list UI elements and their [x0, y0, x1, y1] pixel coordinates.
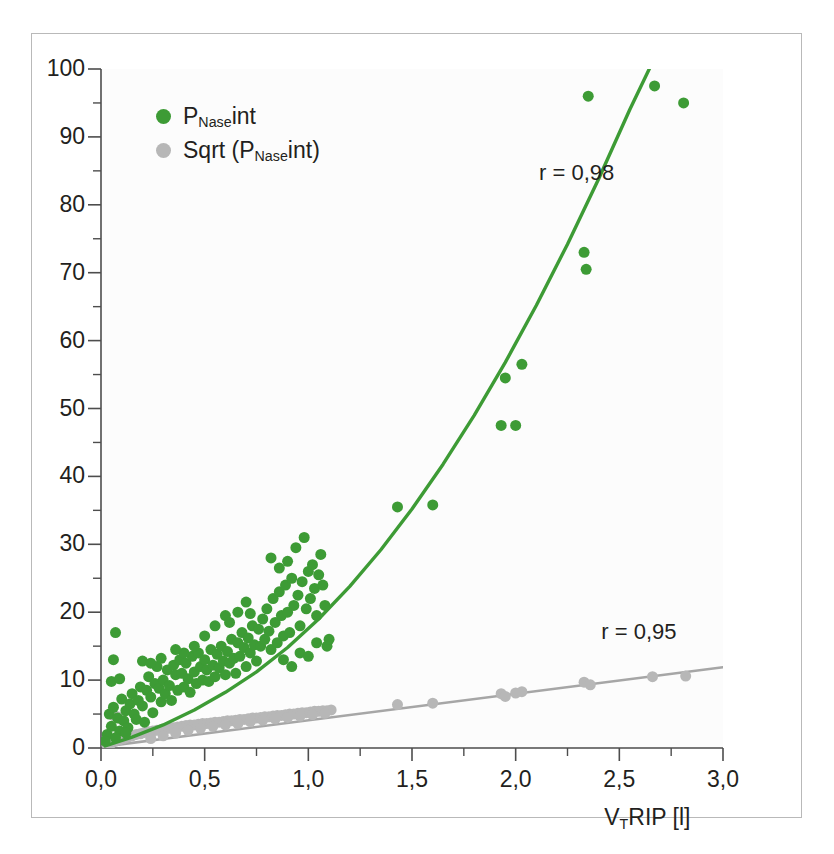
x-tick-label: 2,5: [579, 768, 659, 791]
data-point: [156, 653, 167, 664]
y-tick-label: 60: [21, 329, 85, 352]
y-tick-label: 90: [21, 125, 85, 148]
series-group: [100, 62, 723, 751]
data-point: [319, 600, 330, 611]
data-point: [145, 658, 156, 669]
data-point: [210, 620, 221, 631]
data-point: [496, 420, 507, 431]
data-point: [137, 700, 148, 711]
data-point: [313, 569, 324, 580]
data-point: [251, 656, 262, 667]
data-point: [647, 671, 658, 682]
data-point: [166, 695, 177, 706]
data-point: [299, 532, 310, 543]
legend-marker-icon: [156, 143, 171, 158]
data-point: [241, 597, 252, 608]
data-point: [183, 725, 194, 736]
data-point: [500, 691, 511, 702]
data-point: [158, 730, 169, 741]
legend: PNaseintSqrt (PNaseint): [156, 102, 320, 164]
data-point: [147, 707, 158, 718]
figure-frame: PNaseintSqrt (PNaseint) r = 0,98r = 0,95…: [31, 33, 802, 818]
data-point: [295, 711, 306, 722]
data-point: [581, 264, 592, 275]
data-point: [261, 603, 272, 614]
data-point: [220, 669, 231, 680]
data-point: [139, 717, 150, 728]
x-tick-label: 0,5: [165, 768, 245, 791]
data-point: [680, 671, 691, 682]
data-point: [108, 654, 119, 665]
data-point: [257, 613, 268, 624]
data-point: [307, 559, 318, 570]
data-point: [297, 576, 308, 587]
data-point: [301, 603, 312, 614]
data-point: [678, 97, 689, 108]
data-point: [516, 686, 527, 697]
x-tick-label: 2,0: [476, 768, 556, 791]
x-tick-label: 1,0: [268, 768, 348, 791]
legend-item-label: Sqrt (PNaseint): [183, 139, 320, 162]
data-point: [145, 692, 156, 703]
x-tick-label: 3,0: [683, 768, 763, 791]
data-point: [392, 699, 403, 710]
r-value-green: r = 0,98: [539, 162, 614, 184]
legend-marker-icon: [156, 109, 171, 124]
data-point: [303, 651, 314, 662]
y-tick-label: 100: [21, 57, 85, 80]
legend-item-label: PNaseint: [183, 105, 256, 128]
data-point: [199, 630, 210, 641]
data-point: [319, 708, 330, 719]
data-point: [286, 661, 297, 672]
data-point: [220, 719, 231, 730]
x-tick-label: 0,0: [61, 768, 141, 791]
y-tick-label: 80: [21, 193, 85, 216]
legend-item-sqrt-pnase-int[interactable]: Sqrt (PNaseint): [156, 136, 320, 164]
data-point: [649, 80, 660, 91]
data-point: [232, 607, 243, 618]
data-point: [110, 732, 121, 743]
data-point: [253, 624, 264, 635]
data-point: [324, 634, 335, 645]
data-point: [317, 580, 328, 591]
data-point: [207, 721, 218, 732]
data-point: [282, 556, 293, 567]
data-point: [392, 501, 403, 512]
data-point: [263, 626, 274, 637]
data-point: [516, 359, 527, 370]
data-point: [270, 713, 281, 724]
data-point: [284, 627, 295, 638]
data-point: [585, 679, 596, 690]
data-layer: [32, 34, 803, 819]
data-point: [427, 499, 438, 510]
data-point: [292, 590, 303, 601]
data-point: [241, 661, 252, 672]
data-point: [114, 673, 125, 684]
y-tick-label: 0: [21, 736, 85, 759]
data-point: [286, 573, 297, 584]
data-point: [282, 712, 293, 723]
data-point: [295, 620, 306, 631]
data-point: [311, 637, 322, 648]
y-tick-label: 40: [21, 464, 85, 487]
data-point: [510, 420, 521, 431]
y-tick-label: 70: [21, 261, 85, 284]
data-point: [427, 698, 438, 709]
data-point: [170, 728, 181, 739]
r-value-gray: r = 0,95: [601, 621, 676, 643]
data-point: [579, 247, 590, 258]
data-point: [245, 716, 256, 727]
data-point: [288, 600, 299, 611]
data-point: [500, 372, 511, 383]
y-tick-label: 50: [21, 397, 85, 420]
x-tick-label: 1,5: [372, 768, 452, 791]
y-tick-label: 20: [21, 600, 85, 623]
data-point: [266, 552, 277, 563]
data-point: [311, 610, 322, 621]
data-point: [108, 702, 119, 713]
data-point: [305, 593, 316, 604]
data-point: [315, 549, 326, 560]
y-tick-label: 10: [21, 668, 85, 691]
legend-item-pnase-int[interactable]: PNaseint: [156, 102, 320, 130]
data-point: [245, 608, 256, 619]
